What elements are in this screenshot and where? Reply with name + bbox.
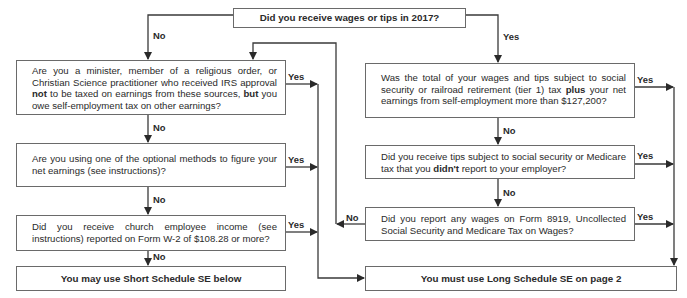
question-text: Are you a minister, member of a religiou… [32,65,277,88]
start-question: Did you receive wages or tips in 2017? [260,12,440,24]
yes-label: Yes [637,150,653,161]
unreported-tips-question-box: Did you receive tips subject to social s… [365,145,635,179]
question-text: to be taxed on earnings from these sourc… [47,88,244,99]
optional-methods-question-box: Are you using one of the optional method… [16,143,286,187]
long-schedule-result-box: You must use Long Schedule SE on page 2 [365,266,677,291]
no-label: No [153,194,166,205]
no-label: No [346,212,359,223]
yes-label: Yes [288,154,304,165]
result-text: You may use Short Schedule SE below [61,273,242,285]
yes-label: Yes [288,219,304,230]
yes-label: Yes [288,71,304,82]
no-label: No [153,122,166,133]
church-income-question-box: Did you receive church employee income (… [16,215,286,251]
short-schedule-result-box: You may use Short Schedule SE below [16,266,286,291]
result-text: You must use Long Schedule SE on page 2 [421,273,622,285]
no-label: No [153,30,166,41]
emphasis-text: plus [566,84,586,95]
yes-label: Yes [637,74,653,85]
no-label: No [503,125,516,136]
question-text: Did you report any wages on Form 8919, U… [381,213,626,236]
yes-label: Yes [503,31,519,42]
emphasis-text: but [243,88,258,99]
no-label: No [503,187,516,198]
minister-question-box: Are you a minister, member of a religiou… [16,60,286,115]
question-text: Did you receive church employee income (… [32,221,277,244]
yes-label: Yes [637,211,653,222]
question-text: Are you using one of the optional method… [32,153,277,176]
no-label: No [153,251,166,262]
start-question-box: Did you receive wages or tips in 2017? [233,8,466,28]
emphasis-text: not [32,88,47,99]
question-text: report to your employer? [459,163,566,174]
wages-threshold-question-box: Was the total of your wages and tips sub… [365,63,635,118]
emphasis-text: didn't [433,163,459,174]
form-8919-question-box: Did you report any wages on Form 8919, U… [365,207,635,241]
